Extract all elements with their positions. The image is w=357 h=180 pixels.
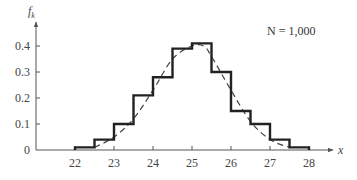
axes: 00.10.20.30.422232425262728 <box>15 22 333 170</box>
y-tick-label: 0.1 <box>15 117 30 131</box>
x-axis-label: x <box>337 143 344 157</box>
dashed-line <box>95 45 290 148</box>
y-tick-label: 0 <box>24 143 30 157</box>
x-tick-label: 22 <box>69 156 81 170</box>
x-tick-label: 24 <box>147 156 159 170</box>
x-tick-label: 23 <box>108 156 120 170</box>
histogram-chart: 00.10.20.30.422232425262728 fk x N = 1,0… <box>0 0 357 180</box>
y-tick-label: 0.4 <box>15 39 30 53</box>
y-tick-label: 0.2 <box>15 91 30 105</box>
step-histogram <box>75 43 309 150</box>
y-tick-label: 0.3 <box>15 65 30 79</box>
y-axis-label: fk <box>28 4 35 20</box>
x-tick-label: 25 <box>186 156 198 170</box>
x-tick-label: 27 <box>264 156 276 170</box>
step-line <box>75 43 309 150</box>
x-tick-label: 28 <box>303 156 315 170</box>
x-tick-label: 26 <box>225 156 237 170</box>
sample-size-annotation: N = 1,000 <box>267 24 315 38</box>
dashed-density-curve <box>95 45 290 148</box>
